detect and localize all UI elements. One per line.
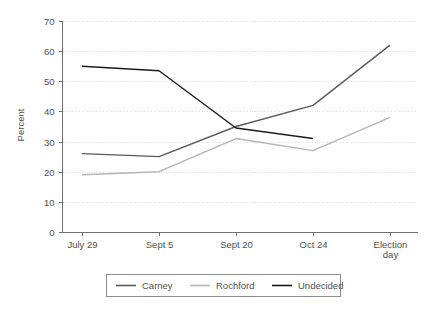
x-tick-label: July 29 — [67, 239, 97, 250]
y-tick-label: 60 — [44, 46, 55, 57]
x-tick-label: Sept 5 — [146, 239, 173, 250]
y-tick-label: 50 — [44, 76, 55, 87]
line-chart: 010203040506070 July 29Sept 5Sept 20Oct … — [0, 0, 429, 313]
chart-canvas: 010203040506070 July 29Sept 5Sept 20Oct … — [0, 0, 429, 313]
y-tick-label: 10 — [44, 197, 55, 208]
x-tick-label-line2: day — [383, 249, 399, 260]
y-axis-title: Percent — [15, 108, 26, 141]
legend-label-undecided: Undecided — [298, 280, 343, 291]
gridline-group — [63, 22, 419, 233]
x-tick-group: July 29Sept 5Sept 20Oct 24Electionday — [67, 232, 407, 260]
legend-label-carney: Carney — [142, 280, 173, 291]
series-line-undecided — [82, 66, 313, 138]
x-tick-label: Sept 20 — [220, 239, 253, 250]
y-tick-label: 30 — [44, 137, 55, 148]
y-tick-group: 010203040506070 — [44, 16, 63, 238]
y-tick-label: 70 — [44, 16, 55, 27]
x-tick-label: Oct 24 — [300, 239, 328, 250]
series-line-carney — [82, 45, 390, 157]
y-tick-label: 40 — [44, 106, 55, 117]
series-group — [82, 45, 390, 175]
y-tick-label: 0 — [49, 227, 54, 238]
legend-label-rochford: Rochford — [216, 280, 255, 291]
y-tick-label: 20 — [44, 167, 55, 178]
chart-legend: CarneyRochfordUndecided — [107, 275, 344, 297]
